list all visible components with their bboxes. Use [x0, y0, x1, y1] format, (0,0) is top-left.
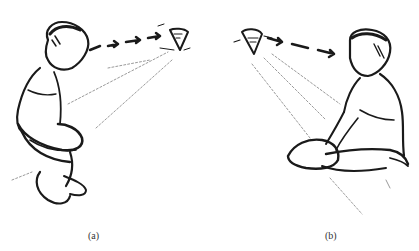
- child-head-icon: [46, 22, 89, 70]
- caption-a: (a): [88, 230, 99, 241]
- child-sitting-illustration-a: [0, 0, 210, 251]
- panel-a: (a): [0, 0, 210, 251]
- child-sitting-illustration-b: [210, 0, 419, 251]
- spinning-top-icon: [234, 29, 272, 54]
- caption-b: (b): [325, 230, 337, 241]
- panel-b: [210, 0, 419, 251]
- spinning-top-icon: [158, 24, 190, 50]
